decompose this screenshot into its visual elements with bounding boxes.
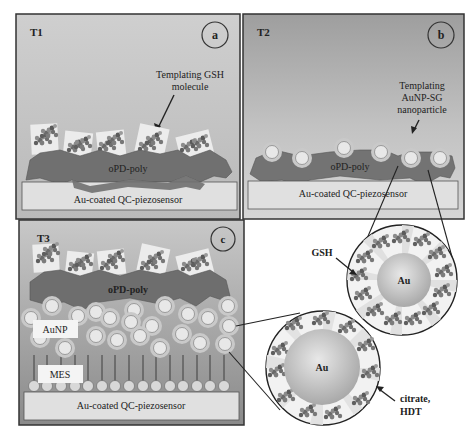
polymer-label-a: oPD-poly	[109, 163, 148, 174]
panel-b: T2 b Templating AuNP-SG nanoparticle oPD…	[243, 14, 464, 219]
panel-a: T1 a Templating GSH molecule oPD-poly Au…	[16, 14, 240, 219]
panel-badge-a-label: a	[212, 28, 218, 42]
panel-badge-c-label: c	[221, 233, 226, 245]
substrate-label-c: Au-coated QC-piezosensor	[77, 400, 186, 411]
diagram-canvas: T1 a Templating GSH molecule oPD-poly Au…	[0, 0, 476, 441]
citrate-label-line2: HDT	[400, 406, 422, 417]
annotation-aunp-line3: nanoparticle	[397, 104, 447, 115]
substrate-label-a: Au-coated QC-piezosensor	[74, 194, 183, 205]
arrow-icon	[379, 389, 395, 401]
aunp-label: AuNP	[42, 324, 67, 335]
citrate-label-line1: citrate,	[400, 393, 431, 404]
mes-label: MES	[50, 369, 71, 380]
stage-label-t3: T3	[37, 232, 50, 244]
stage-label-t1: T1	[30, 26, 43, 38]
annotation-aunp-line2: AuNP-SG	[401, 92, 442, 103]
figure: T1 a Templating GSH molecule oPD-poly Au…	[0, 0, 476, 441]
stage-label-t2: T2	[257, 26, 270, 38]
annotation-aunp-line1: Templating	[399, 80, 444, 91]
au-core-label-2: Au	[316, 362, 329, 373]
annotation-gsh-line1: Templating GSH	[156, 69, 224, 80]
polymer-label-c: oPD-poly	[108, 284, 148, 295]
gsh-label: GSH	[311, 247, 332, 258]
annotation-gsh-line2: molecule	[172, 81, 209, 92]
au-core-label-1: Au	[398, 275, 411, 286]
panel-badge-b-label: b	[438, 28, 445, 42]
polymer-label-b: oPD-poly	[331, 161, 370, 172]
panel-c: T3 c oPD-poly	[19, 220, 244, 425]
substrate-label-b: Au-coated QC-piezosensor	[299, 188, 408, 199]
